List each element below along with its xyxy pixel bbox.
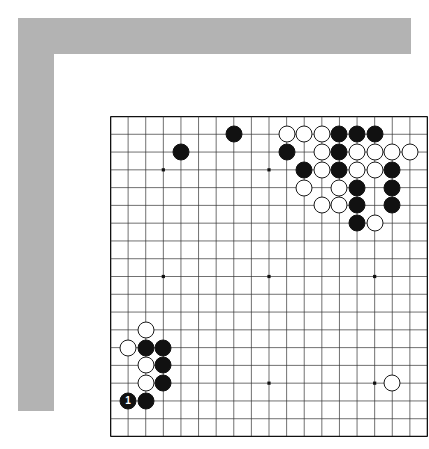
stone-black[interactable] <box>225 126 242 143</box>
stone-black[interactable] <box>384 197 401 214</box>
stone-white[interactable] <box>384 144 401 161</box>
stone-white[interactable] <box>313 161 330 178</box>
stone-white[interactable] <box>331 197 348 214</box>
stone-white[interactable] <box>366 161 383 178</box>
go-board[interactable]: 1 <box>110 116 428 437</box>
stone-white[interactable] <box>313 197 330 214</box>
stone-black[interactable] <box>331 126 348 143</box>
stone-white[interactable] <box>331 179 348 196</box>
stone-white[interactable] <box>296 179 313 196</box>
stone-black[interactable] <box>155 357 172 374</box>
stone-black[interactable] <box>172 144 189 161</box>
stone-white[interactable] <box>137 357 154 374</box>
stone-white[interactable] <box>296 126 313 143</box>
stone-black[interactable] <box>331 144 348 161</box>
stone-white[interactable] <box>366 144 383 161</box>
stone-black[interactable] <box>155 339 172 356</box>
stone-black[interactable] <box>331 161 348 178</box>
stone-white[interactable] <box>313 144 330 161</box>
stone-white[interactable] <box>349 144 366 161</box>
stone-white[interactable] <box>401 144 418 161</box>
stone-white[interactable] <box>278 126 295 143</box>
diagram-outer-frame: 1 <box>18 18 411 411</box>
stone-white[interactable] <box>137 375 154 392</box>
stone-black[interactable] <box>349 126 366 143</box>
stone-black[interactable] <box>155 375 172 392</box>
stone-black[interactable] <box>296 161 313 178</box>
stone-white[interactable] <box>313 126 330 143</box>
stone-black[interactable] <box>278 144 295 161</box>
stone-black[interactable] <box>384 161 401 178</box>
stone-black[interactable] <box>349 215 366 232</box>
stone-white[interactable] <box>384 375 401 392</box>
stone-white[interactable] <box>366 215 383 232</box>
stone-black[interactable] <box>366 126 383 143</box>
stone-black[interactable] <box>384 179 401 196</box>
board-mat: 1 <box>54 54 411 411</box>
stone-white[interactable] <box>120 339 137 356</box>
stone-white[interactable] <box>137 321 154 338</box>
stone-black[interactable] <box>137 339 154 356</box>
stone-black[interactable]: 1 <box>120 392 137 409</box>
stone-move-number: 1 <box>125 396 131 406</box>
stone-black[interactable] <box>137 392 154 409</box>
stone-black[interactable] <box>349 179 366 196</box>
stone-white[interactable] <box>349 161 366 178</box>
stone-black[interactable] <box>349 197 366 214</box>
